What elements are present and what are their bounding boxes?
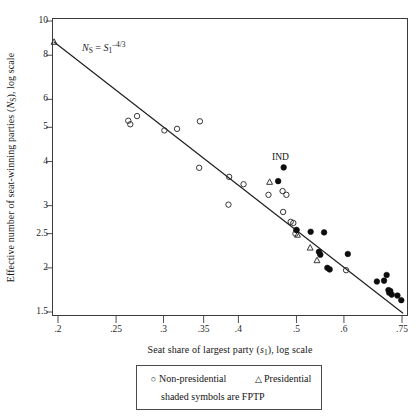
data-point bbox=[284, 192, 289, 197]
data-point bbox=[281, 165, 287, 171]
y-tick-label: 10 bbox=[22, 16, 48, 26]
data-point bbox=[345, 251, 351, 257]
y-tick-label: 4 bbox=[22, 157, 48, 167]
ind-point-label: IND bbox=[272, 152, 289, 162]
x-tick-label: .3 bbox=[149, 325, 179, 335]
legend-item-non-presidential: ○Non-presidential bbox=[148, 373, 226, 384]
data-point bbox=[318, 252, 324, 258]
x-tick-label: .25 bbox=[101, 325, 131, 335]
model-formula-annotation: NS = S1–4/3 bbox=[82, 40, 126, 55]
data-point bbox=[314, 257, 320, 263]
data-point bbox=[327, 267, 333, 273]
x-tick-label: .5 bbox=[281, 325, 311, 335]
y-tick-label: 5 bbox=[22, 122, 48, 132]
data-point bbox=[399, 297, 405, 303]
data-point bbox=[294, 227, 300, 233]
tick-marks bbox=[46, 21, 402, 323]
y-tick-label: 2 bbox=[22, 263, 48, 273]
legend-item-presidential-label: Presidential bbox=[264, 373, 311, 384]
x-axis-tick-labels: .2.25.3.35.4.5.6.75 bbox=[0, 325, 418, 339]
legend: ○Non-presidential △Presidential shaded s… bbox=[136, 365, 322, 410]
data-point bbox=[174, 126, 179, 131]
data-point bbox=[241, 182, 246, 187]
x-axis-title-suffix: ), log scale bbox=[268, 344, 313, 355]
data-point bbox=[280, 209, 285, 214]
data-point bbox=[307, 245, 313, 251]
formula-lhs-var: N bbox=[82, 42, 89, 53]
x-axis-title: Seat share of largest party (s1), log sc… bbox=[52, 344, 408, 357]
data-points bbox=[51, 39, 404, 303]
data-point bbox=[389, 292, 395, 298]
data-point bbox=[308, 229, 314, 235]
formula-rhs-exponent: –4/3 bbox=[112, 40, 125, 49]
y-tick-label: 2.5 bbox=[22, 229, 48, 239]
x-axis-title-prefix: Seat share of largest party ( bbox=[147, 344, 259, 355]
open-triangle-icon: △ bbox=[253, 374, 264, 384]
data-point bbox=[374, 279, 380, 285]
legend-row-note: shaded symbols are FPTP bbox=[137, 391, 323, 407]
data-point bbox=[395, 293, 401, 299]
y-axis-title-sub: S bbox=[9, 98, 18, 102]
data-point bbox=[381, 278, 387, 284]
y-axis-title-var: N bbox=[5, 102, 16, 109]
legend-note: shaded symbols are FPTP bbox=[161, 391, 265, 402]
data-point bbox=[134, 113, 139, 118]
legend-row-symbols: ○Non-presidential △Presidential bbox=[137, 373, 323, 389]
formula-equals: = bbox=[93, 42, 104, 53]
y-tick-label: 8 bbox=[22, 50, 48, 60]
y-axis-title-prefix: Effective number of seat-winning parties… bbox=[5, 109, 16, 283]
x-tick-label: .2 bbox=[43, 325, 73, 335]
y-axis-title: Effective number of seat-winning parties… bbox=[5, 18, 18, 318]
data-point bbox=[321, 230, 327, 236]
data-point bbox=[197, 119, 202, 124]
open-circle-icon: ○ bbox=[148, 374, 159, 384]
x-tick-label: .4 bbox=[223, 325, 253, 335]
data-point bbox=[384, 272, 390, 278]
y-tick-label: 1.5 bbox=[22, 307, 48, 317]
reference-line bbox=[54, 42, 403, 313]
y-axis-title-suffix: ), log scale bbox=[5, 53, 16, 98]
data-point bbox=[267, 179, 273, 185]
figure-scatter-seat-share: 10865432.521.5 .2.25.3.35.4.5.6.75 NS = … bbox=[0, 0, 418, 418]
data-point bbox=[275, 178, 281, 184]
y-tick-label: 6 bbox=[22, 94, 48, 104]
y-axis-tick-labels: 10865432.521.5 bbox=[14, 0, 48, 418]
data-point bbox=[266, 192, 271, 197]
data-point bbox=[226, 202, 231, 207]
legend-item-non-presidential-label: Non-presidential bbox=[159, 373, 226, 384]
legend-item-presidential: △Presidential bbox=[253, 373, 311, 384]
x-tick-label: .75 bbox=[387, 325, 417, 335]
x-tick-label: .6 bbox=[329, 325, 359, 335]
x-tick-label: .35 bbox=[189, 325, 219, 335]
data-point bbox=[196, 165, 201, 170]
y-tick-label: 3 bbox=[22, 201, 48, 211]
